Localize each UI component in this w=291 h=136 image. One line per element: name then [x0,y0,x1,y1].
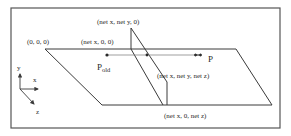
net-x-0-net-z-label: (net x, 0, net z) [164,112,207,120]
z-axis-label: z [36,108,39,116]
net-x-net-y-net-z-label: (net x, net y, net z) [157,72,210,80]
p-new-label: P [208,54,213,64]
diagram-frame [11,8,280,128]
net-x-0-0-label: (net x, 0, 0) [81,38,114,46]
vertical-plane [131,28,167,105]
net-x-net-y-0-label: (net x, net y, 0) [97,18,140,26]
p-new-marker [195,54,202,56]
p-old-label: Pold [97,62,111,73]
plane-intersection-diagram: Pold P (0, 0, 0) (net x, 0, 0) (net x, n… [0,0,291,136]
z-axis-arrow-icon [20,89,34,104]
x-axis-label: x [33,76,37,84]
p-old-dot [105,53,108,56]
origin-label: (0, 0, 0) [27,38,50,46]
y-axis-label: y [17,64,21,72]
intersection-dot [146,54,149,57]
